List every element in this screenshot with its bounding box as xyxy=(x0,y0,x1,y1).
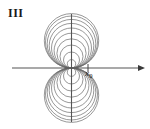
x-axis-tick-label: x0 xyxy=(85,69,92,80)
figure-container: III x0 xyxy=(0,0,150,129)
x-axis-arrowhead xyxy=(138,65,145,71)
figure-roman-label: III xyxy=(8,7,24,19)
x-tick-subscript: 0 xyxy=(89,72,92,79)
axes-group xyxy=(12,14,145,122)
